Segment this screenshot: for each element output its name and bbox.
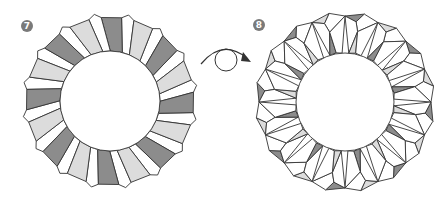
diagram-canvas bbox=[0, 0, 434, 197]
step-8-ring bbox=[256, 13, 433, 190]
step-number-badge-8: 8 bbox=[253, 19, 265, 31]
turn-over-arrow-icon bbox=[201, 49, 251, 71]
step-number-badge-7: 7 bbox=[21, 20, 33, 32]
step-7-ring bbox=[23, 14, 196, 187]
origami-diagram: 7 8 bbox=[0, 0, 434, 197]
